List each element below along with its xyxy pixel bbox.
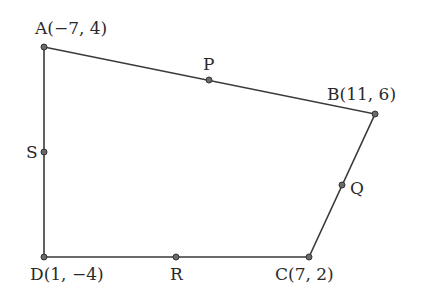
point-b: [372, 111, 378, 117]
quadrilateral-figure: [0, 0, 434, 301]
label-b: B(11, 6): [327, 86, 396, 103]
label-a: A(−7, 4): [35, 20, 107, 37]
diagram-canvas: A(−7, 4) B(11, 6) C(7, 2) D(1, −4) P Q R…: [0, 0, 434, 301]
point-q: [339, 182, 345, 188]
point-c: [306, 254, 312, 260]
label-c: C(7, 2): [275, 266, 334, 283]
label-q: Q: [350, 180, 364, 197]
label-r: R: [170, 266, 183, 283]
label-s: S: [26, 144, 38, 161]
point-s: [41, 149, 47, 155]
point-a: [41, 44, 47, 50]
point-d: [41, 254, 47, 260]
point-r: [173, 254, 179, 260]
point-p: [206, 77, 212, 83]
label-p: P: [203, 56, 214, 73]
label-d: D(1, −4): [30, 266, 104, 283]
